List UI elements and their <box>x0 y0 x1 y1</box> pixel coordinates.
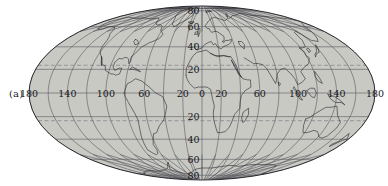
latitude-label--20: 20 <box>187 111 199 122</box>
latitude-label--80: 80 <box>187 170 199 181</box>
longitude-label-60: 60 <box>254 88 266 99</box>
latitude-label--60: 60 <box>187 154 199 165</box>
longitude-label-100: 100 <box>289 88 307 99</box>
longitude-label--60: 60 <box>138 88 150 99</box>
longitude-label--140: 140 <box>58 88 76 99</box>
longitude-label--20: 20 <box>177 88 189 99</box>
latitude-label-40: 40 <box>187 41 199 52</box>
longitude-label-180: 180 <box>366 88 384 99</box>
longitude-label--100: 100 <box>97 88 115 99</box>
coastline-segment-22 <box>101 57 102 66</box>
world-map-figure: (a) 180140100602002060100140180 80604020… <box>0 0 388 186</box>
mollweide-map: 180140100602002060100140180 806040202040… <box>0 0 388 186</box>
longitude-label--180: 180 <box>20 88 38 99</box>
latitude-label--40: 40 <box>187 134 199 145</box>
longitude-label-20: 20 <box>215 88 227 99</box>
longitude-labels: 180140100602002060100140180 <box>20 88 384 99</box>
longitude-label-140: 140 <box>328 88 346 99</box>
longitude-label-0: 0 <box>199 88 205 99</box>
latitude-label-60: 60 <box>187 21 199 32</box>
latitude-label-20: 20 <box>187 64 199 75</box>
latitude-label-80: 80 <box>187 5 199 16</box>
